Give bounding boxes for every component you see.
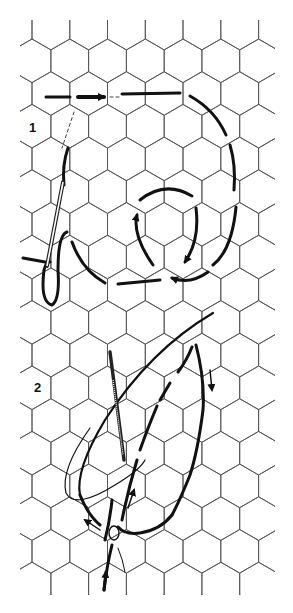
- step-2-thread: [65, 313, 213, 590]
- step-1-thread: [23, 93, 236, 305]
- step-label-1: 1: [29, 120, 36, 135]
- stitch-paths: [0, 0, 293, 613]
- hex-net-stitch-diagram: 1 2: [0, 0, 293, 613]
- step-1-needle: [47, 182, 63, 266]
- step-2-needle: [110, 352, 124, 460]
- step-label-2: 2: [34, 380, 41, 395]
